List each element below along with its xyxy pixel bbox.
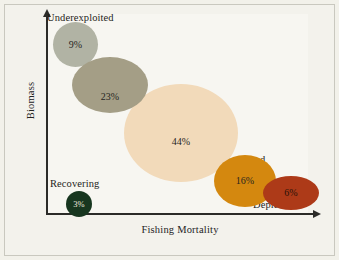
bubble-depleted: 6% [263, 176, 319, 210]
x-axis-title: Fishing Mortality [46, 224, 314, 235]
bubble-recovering: 3% [66, 191, 92, 217]
bubble-label-recovering-line1: Recovering [50, 178, 99, 190]
x-axis-arrow-icon [313, 210, 321, 218]
y-axis-title: Biomass [25, 71, 36, 131]
bubble-value-moderately: 23% [72, 91, 148, 102]
bubble-value-depleted: 6% [263, 187, 319, 198]
bubble-value-fully: 44% [124, 136, 238, 147]
bubble-label-recovering: Recovering [50, 178, 99, 190]
bubble-value-recovering: 3% [66, 199, 92, 209]
bubble-moderately-exploited: 23% [72, 57, 148, 113]
chart-figure: 44% 9% 23% 16% 6% 3% Underexploited Mode… [0, 0, 339, 260]
bubble-value-underexploited: 9% [53, 39, 98, 50]
y-axis-line [46, 16, 48, 214]
